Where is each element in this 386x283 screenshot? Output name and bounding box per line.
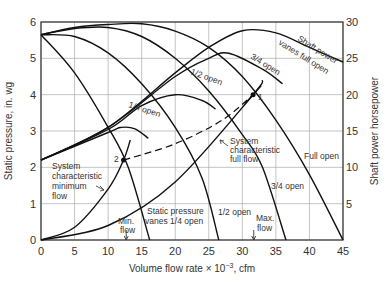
y-tick-label: 4 [30,89,36,101]
y2-axis-title: Shaft power horsepower [369,76,380,185]
x-tick-label: 20 [169,245,181,257]
x-axis-ticks: 051015202530354045 [38,245,349,257]
label-static-full: Full open [304,151,339,161]
x-tick-label: 0 [38,245,44,257]
point-2-label: 2 [114,154,119,164]
y2-tick-label: 30 [346,16,358,28]
x-tick-label: 30 [236,245,248,257]
label-system-min-3: minimum [52,181,86,191]
y2-tick-label: 25 [346,52,358,64]
x-tick-label: 40 [303,245,315,257]
operating-point-2 [121,158,126,163]
x-tick-label: 35 [270,245,282,257]
label-system-min: System [52,161,80,171]
y2-tick-label: 15 [346,125,358,137]
arrow-system-min [96,186,104,191]
label-power-12: 1/2 open [189,66,224,87]
arrow-system-full [220,140,228,146]
point-1-label: 1 [258,92,263,102]
y2-tick-label: 20 [346,89,358,101]
x-tick-label: 5 [71,245,77,257]
x-tick-label: 10 [102,245,114,257]
y-tick-label: 3 [30,125,36,137]
label-min-flow-2: flow [120,225,136,235]
x-axis-title: Volume flow rate × 10−3, cfm [129,262,255,274]
label-system-min-4: flow [52,191,68,201]
y2-tick-label: 5 [346,198,352,210]
label-static-34: 3/4 open [271,181,304,191]
label-max-flow: Max. [256,213,274,223]
y-tick-label: 6 [30,16,36,28]
label-system-min-2: characteristic [52,171,103,181]
y-tick-label: 2 [30,161,36,173]
label-static-14-2: vanes 1/4 open [145,216,203,226]
x-tick-label: 25 [203,245,215,257]
curve-shaft-power-1-4-open [41,127,148,160]
y-tick-label: 5 [30,52,36,64]
fan-performance-chart: 051015202530354045 0123456 51015202530 V… [0,0,386,283]
y-axis-ticks: 0123456 [30,16,36,246]
marker-arrow-max-flow [252,230,256,240]
y2-axis-ticks: 51015202530 [346,16,358,210]
x-tick-label: 15 [136,245,148,257]
x-tick-label: 45 [337,245,349,257]
y-tick-label: 1 [30,198,36,210]
y-axis-title: Static pressure, in. wg [3,82,14,180]
label-static-14: Static pressure [147,206,204,216]
label-system-full-3: full flow [230,154,259,164]
label-static-12: 1/2 open [218,207,251,217]
label-max-flow-2: flow [257,223,273,233]
y2-tick-label: 10 [346,161,358,173]
y-tick-label: 0 [30,234,36,246]
